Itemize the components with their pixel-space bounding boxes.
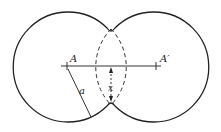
label-a: A — [69, 53, 77, 64]
dashed-arc-right — [111, 29, 126, 105]
dashed-arc-left — [96, 29, 111, 105]
diagram: A A′ a x — [0, 0, 221, 132]
label-a-prime: A′ — [159, 53, 170, 64]
label-radius: a — [79, 85, 85, 96]
arrow-down-icon — [109, 96, 113, 102]
arrow-up-icon — [109, 67, 113, 73]
label-distance: x — [108, 83, 113, 93]
outer-outline — [13, 12, 209, 122]
